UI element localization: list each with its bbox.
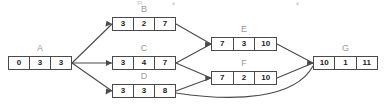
node-c-cell-0: 3	[113, 57, 134, 69]
edge-a-d	[72, 63, 112, 91]
node-g-cell-0: 10	[314, 57, 335, 69]
node-b-cell-0: 3	[113, 18, 134, 30]
node-e-cell-0: 7	[212, 38, 234, 50]
node-b-label: B	[112, 4, 176, 14]
node-f-cell-0: 7	[212, 72, 234, 84]
node-a-cell-1: 3	[30, 57, 51, 69]
node-c-label: C	[112, 43, 176, 53]
node-c-box: 3 4 7	[112, 56, 176, 70]
node-b-cell-2: 7	[155, 18, 175, 30]
node-f-cell-2: 10	[255, 72, 276, 84]
node-e-box: 7 3 10	[211, 37, 277, 51]
node-a-cell-2: 3	[51, 57, 71, 69]
node-g-box: 10 1 11	[313, 56, 378, 70]
edge-e-g	[277, 44, 313, 63]
node-f-box: 7 2 10	[211, 71, 277, 85]
node-a-cell-0: 0	[9, 57, 30, 69]
node-e-cell-1: 3	[234, 38, 256, 50]
node-d-box: 3 3 8	[112, 84, 176, 98]
node-b[interactable]: B 3 2 7	[112, 17, 176, 31]
node-g[interactable]: G 10 1 11	[313, 56, 378, 70]
node-a-box: 0 3 3	[8, 56, 72, 70]
network-diagram: B • •	[0, 0, 384, 111]
node-g-cell-2: 11	[357, 57, 377, 69]
node-b-cell-1: 2	[134, 18, 155, 30]
node-e-label: E	[211, 24, 277, 34]
node-b-box: 3 2 7	[112, 17, 176, 31]
node-e[interactable]: E 7 3 10	[211, 37, 277, 51]
node-d[interactable]: D 3 3 8	[112, 84, 176, 98]
edge-a-b	[72, 24, 112, 63]
node-f[interactable]: F 7 2 10	[211, 71, 277, 85]
node-c-cell-1: 4	[134, 57, 155, 69]
node-g-cell-1: 1	[335, 57, 356, 69]
node-c-cell-2: 7	[155, 57, 175, 69]
node-d-cell-0: 3	[113, 85, 134, 97]
node-d-cell-2: 8	[155, 85, 175, 97]
node-d-cell-1: 3	[134, 85, 155, 97]
edge-b-e	[176, 24, 211, 44]
node-g-label: G	[313, 43, 378, 53]
node-e-cell-2: 10	[255, 38, 276, 50]
node-a[interactable]: A 0 3 3	[8, 56, 72, 70]
node-d-label: D	[112, 71, 176, 81]
node-f-cell-1: 2	[234, 72, 256, 84]
node-c[interactable]: C 3 4 7	[112, 56, 176, 70]
node-f-label: F	[211, 58, 277, 68]
node-a-label: A	[8, 43, 72, 53]
